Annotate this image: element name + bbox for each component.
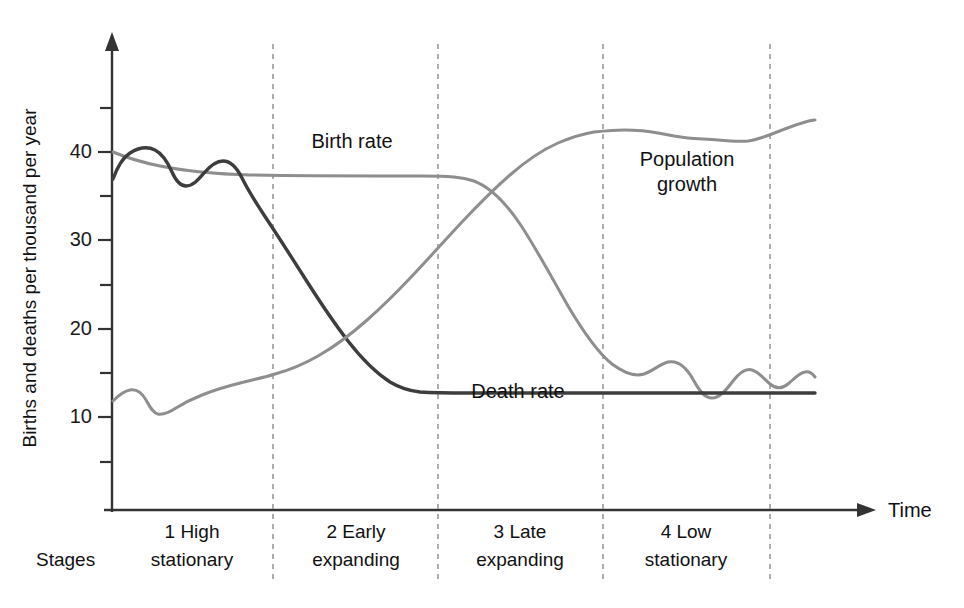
stage-label-4-line2: stationary bbox=[645, 549, 728, 570]
stage-label-2-line1: 2 Early bbox=[326, 521, 386, 542]
y-tick-label-20: 20 bbox=[70, 317, 92, 339]
x-axis-title: Time bbox=[888, 499, 932, 521]
demographic-transition-chart: 40 30 20 10 Births and deaths per thousa… bbox=[0, 0, 964, 608]
stage-label-1-line1: 1 High bbox=[165, 521, 220, 542]
y-tick-label-40: 40 bbox=[70, 140, 92, 162]
y-tick-label-30: 30 bbox=[70, 228, 92, 250]
stages-caption: Stages bbox=[36, 549, 95, 570]
y-axis-title: Births and deaths per thousand per year bbox=[19, 108, 40, 448]
y-tick-label-10: 10 bbox=[70, 405, 92, 427]
stage-label-4-line1: 4 Low bbox=[661, 521, 712, 542]
birth-rate-label: Birth rate bbox=[311, 130, 392, 152]
stage-label-3-line1: 3 Late bbox=[494, 521, 547, 542]
population-growth-label-line2: growth bbox=[657, 173, 717, 195]
death-rate-label: Death rate bbox=[471, 380, 564, 402]
chart-background bbox=[0, 0, 964, 608]
stage-label-1-line2: stationary bbox=[151, 549, 234, 570]
population-growth-label-line1: Population bbox=[640, 148, 735, 170]
demographic-transition-figure: 40 30 20 10 Births and deaths per thousa… bbox=[0, 0, 964, 608]
stage-label-2-line2: expanding bbox=[312, 549, 400, 570]
stage-label-3-line2: expanding bbox=[476, 549, 564, 570]
